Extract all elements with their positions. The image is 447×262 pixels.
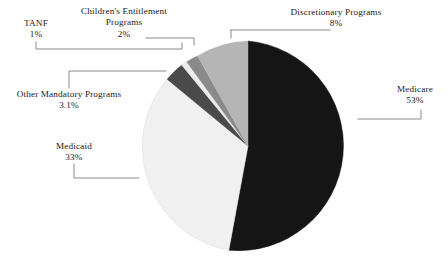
slice-label-other-mandatory-name: Other Mandatory Programs: [5, 89, 133, 100]
leader-line-medicare: [358, 110, 421, 119]
slice-label-childrens-entitlement[interactable]: Children's Entitlement Programs 2%: [64, 6, 184, 40]
slice-label-tanf-name: TANF: [10, 18, 62, 29]
slice-label-other-mandatory[interactable]: Other Mandatory Programs 3.1%: [5, 89, 133, 112]
slice-label-discretionary-percent: 8%: [281, 18, 391, 29]
slice-label-medicaid-name: Medicaid: [34, 141, 114, 152]
slice-label-childrens-entitlement-percent: 2%: [64, 29, 184, 40]
slice-label-discretionary[interactable]: Discretionary Programs 8%: [281, 7, 391, 30]
leader-line-discretionary: [231, 30, 330, 38]
slice-label-medicare-name: Medicare: [386, 84, 444, 95]
leader-line-tanf: [36, 42, 182, 49]
slice-label-childrens-entitlement-name-line2: Programs: [64, 17, 184, 28]
pie-chart-figure: TANF 1% Children's Entitlement Programs …: [0, 0, 447, 262]
slice-label-medicaid[interactable]: Medicaid 33%: [34, 141, 114, 164]
leader-line-medicaid: [74, 164, 139, 178]
pie-slices: [142, 41, 343, 251]
leader-line-other-mandatory: [69, 71, 166, 88]
slice-label-medicare-percent: 53%: [386, 95, 444, 106]
slice-label-other-mandatory-percent: 3.1%: [5, 100, 133, 111]
slice-label-childrens-entitlement-name-line1: Children's Entitlement: [64, 6, 184, 17]
slice-label-tanf[interactable]: TANF 1%: [10, 18, 62, 41]
slice-label-medicaid-percent: 33%: [34, 152, 114, 163]
slice-label-medicare[interactable]: Medicare 53%: [386, 84, 444, 107]
slice-label-tanf-percent: 1%: [10, 29, 62, 40]
slice-label-discretionary-name: Discretionary Programs: [281, 7, 391, 18]
